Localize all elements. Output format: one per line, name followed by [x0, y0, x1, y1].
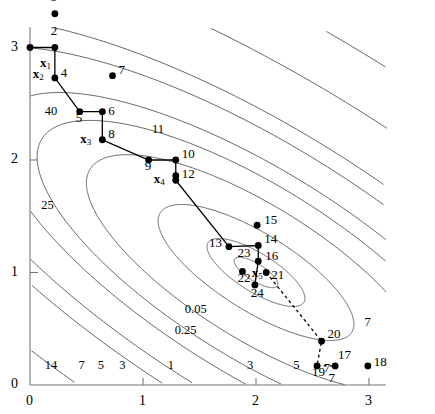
y-tick-label-2: 2	[11, 152, 18, 166]
point-label-4: 4	[61, 66, 68, 79]
x-tick-label-1: 1	[139, 394, 146, 408]
point-label-2: 2	[51, 24, 58, 37]
data-point-20[interactable]	[318, 338, 325, 345]
data-point-12[interactable]	[172, 177, 179, 184]
vertex-label-x2: x2	[33, 67, 44, 82]
y-tick-label-1: 1	[11, 265, 18, 279]
data-point-18[interactable]	[364, 362, 371, 369]
data-point-6[interactable]	[99, 108, 106, 115]
point-label-15: 15	[264, 213, 277, 226]
contour-label-5: 3	[119, 359, 125, 372]
contour-line-40	[326, 31, 385, 67]
contour-label-7: 3	[247, 359, 253, 372]
point-label-3: 3	[51, 0, 58, 3]
contour-label-6: 1	[168, 359, 174, 372]
point-label-23: 23	[237, 246, 250, 259]
contour-line-7	[30, 93, 386, 240]
contour-label-12: 0.05	[185, 303, 207, 316]
contour-line-25	[211, 28, 387, 128]
data-point-2[interactable]	[51, 44, 58, 51]
point-label-10: 10	[182, 147, 195, 160]
contour-line-5	[37, 120, 386, 384]
point-label-17: 17	[338, 348, 351, 361]
point-label-14: 14	[264, 232, 277, 245]
contour-label-11: 11	[152, 123, 164, 136]
contour-label-13: 0.25	[175, 324, 197, 337]
x-tick-label-0: 0	[26, 394, 33, 408]
data-point-3[interactable]	[51, 10, 58, 17]
contour-label-1: 25	[41, 199, 54, 212]
y-tick-label-0: 0	[11, 377, 18, 391]
contour-label-10: 7	[364, 316, 370, 329]
x-tick-label-2: 2	[252, 394, 259, 408]
contour-label-3: 7	[79, 359, 85, 372]
contour-label-2: 14	[45, 359, 58, 372]
contour-label-8: 5	[293, 359, 299, 372]
plot-canvas	[0, 0, 435, 414]
x-tick-label-3: 3	[365, 394, 372, 408]
data-point-16[interactable]	[255, 258, 262, 265]
vertex-label-x4: x4	[154, 172, 165, 187]
data-point-10[interactable]	[172, 157, 179, 164]
vertex-label-x5: x5	[252, 266, 263, 281]
contour-line-11	[30, 48, 383, 205]
data-point-21[interactable]	[263, 269, 270, 276]
data-point-14[interactable]	[255, 242, 262, 249]
point-label-21: 21	[271, 268, 284, 281]
data-point-8[interactable]	[99, 136, 106, 143]
data-point-13[interactable]	[225, 243, 232, 250]
point-label-13: 13	[209, 236, 222, 249]
contour-plot-figure: 2345678910121314151617181920212223247x1x…	[0, 0, 435, 414]
point-label-9: 9	[145, 159, 152, 172]
data-point-7[interactable]	[109, 72, 116, 79]
point-label-20: 20	[328, 327, 341, 340]
data-point-15[interactable]	[254, 222, 261, 229]
point-label-12: 12	[182, 167, 195, 180]
point-label-22: 22	[237, 271, 250, 284]
contour-label-4: 5	[98, 359, 104, 372]
data-point-17[interactable]	[332, 362, 339, 369]
contour-label-9: 7	[324, 362, 330, 375]
data-point-1[interactable]	[27, 44, 34, 51]
vertex-label-x3: x3	[80, 132, 91, 147]
contour-label-0: 40	[45, 105, 58, 118]
point-label-8: 8	[108, 127, 115, 140]
data-point-4[interactable]	[51, 74, 58, 81]
contour-line-14	[53, 28, 383, 185]
y-tick-label-3: 3	[11, 40, 18, 54]
point-label-16: 16	[265, 249, 278, 262]
point-label-7: 7	[118, 63, 125, 76]
point-label-6: 6	[108, 104, 115, 117]
point-label-5: 5	[76, 111, 83, 124]
point-label-24: 24	[251, 286, 264, 299]
point-label-18: 18	[374, 355, 387, 368]
